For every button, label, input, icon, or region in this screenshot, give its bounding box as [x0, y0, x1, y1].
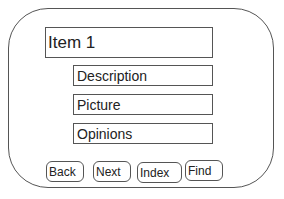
opinions-field[interactable]: Opinions	[73, 123, 213, 144]
item-title: Item 1	[45, 27, 213, 58]
find-button[interactable]: Find	[185, 160, 223, 181]
description-field[interactable]: Description	[73, 65, 213, 86]
picture-field[interactable]: Picture	[73, 94, 213, 115]
next-button[interactable]: Next	[93, 161, 131, 182]
index-button[interactable]: Index	[137, 162, 182, 183]
back-button[interactable]: Back	[46, 161, 84, 182]
